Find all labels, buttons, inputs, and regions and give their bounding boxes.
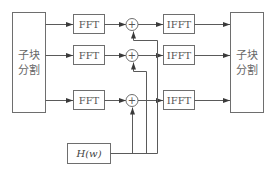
fft-label-3: FFT <box>79 95 100 106</box>
left-split-label-1: 子块 <box>18 49 40 62</box>
ifft-block-2: IFFT <box>164 46 195 65</box>
right-block-label-1: 子块 <box>236 49 258 62</box>
adder-symbol-2: + <box>128 50 136 61</box>
fft-block-2: FFT <box>74 46 105 65</box>
ifft-label-2: IFFT <box>167 50 192 61</box>
adder-1: + <box>126 19 138 31</box>
adder-2: + <box>126 50 138 62</box>
left-split-block: 子块 分割 <box>13 13 46 113</box>
adder-symbol-1: + <box>128 19 136 30</box>
fft-label-2: FFT <box>79 50 100 61</box>
fft-block-1: FFT <box>74 15 105 34</box>
ifft-block-1: IFFT <box>164 15 195 34</box>
adder-3: + <box>126 95 138 107</box>
filter-block: H(w) <box>68 144 111 164</box>
filter-label: H(w) <box>75 148 101 159</box>
fft-block-3: FFT <box>74 91 105 110</box>
fft-label-1: FFT <box>79 19 100 30</box>
ifft-label-1: IFFT <box>167 19 192 30</box>
adder-symbol-3: + <box>128 95 136 106</box>
ifft-label-3: IFFT <box>167 95 192 106</box>
right-merge-block: 子块 分割 <box>231 13 264 113</box>
left-split-label-2: 分割 <box>18 63 40 77</box>
right-block-label-2: 分割 <box>236 63 258 77</box>
block-diagram: 子块 分割 FFT FFT FFT + + + IFFT <box>0 0 273 174</box>
wire-filter-adder1 <box>134 32 158 154</box>
wire-filter-adder2 <box>134 63 147 154</box>
ifft-block-3: IFFT <box>164 91 195 110</box>
